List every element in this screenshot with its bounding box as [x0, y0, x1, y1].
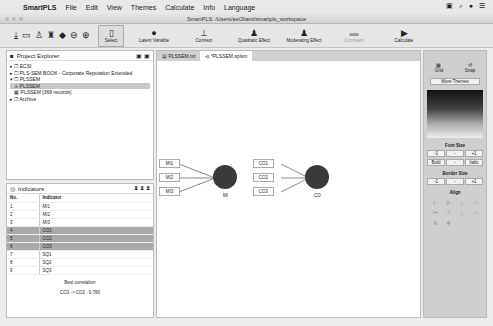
indicator-co1[interactable]: CO1	[253, 159, 274, 168]
toolbar: ⤓▭♙♜◆⊖⊕ ▯Select ●Latent Variable ⊥Connec…	[0, 24, 493, 48]
quadratic-effect-tool[interactable]: ♟Quadratic Effect	[234, 25, 274, 47]
latent-variable-tool[interactable]: ●Latent Variable	[134, 25, 174, 47]
indicator-mi3[interactable]: MI3	[159, 187, 180, 196]
moderating-effect-icon: ♟	[300, 28, 308, 38]
comment-icon: ▬	[350, 28, 359, 38]
font-increase-button[interactable]: +1	[465, 150, 483, 157]
best-correlation-label: Best correlation	[7, 280, 153, 285]
menu-file[interactable]: File	[65, 4, 76, 11]
table-row[interactable]: 2MI2	[7, 210, 153, 218]
window-icon[interactable]: ▭	[22, 30, 31, 41]
connect-tool[interactable]: ⊥Connect	[184, 25, 224, 47]
menu-language[interactable]: Language	[224, 4, 255, 11]
filter-icon[interactable]: ⧗	[140, 185, 144, 192]
table-row[interactable]: 1MI1	[7, 202, 153, 210]
delete-icon[interactable]: ♜	[47, 30, 55, 41]
indicator-co3[interactable]: CO3	[253, 187, 274, 196]
font-decrease-button[interactable]: -1	[427, 150, 445, 157]
filter-icon[interactable]: ⧗	[146, 185, 150, 192]
project-explorer: ■Project Explorer▣▣ ▸ ☐ ECSI ▸ ☐ PLS-SEM…	[6, 50, 154, 180]
align-icon: ⊥	[457, 209, 467, 216]
align-icon: ⊥	[457, 199, 467, 206]
search-icon[interactable]: ⌕	[459, 2, 463, 10]
window-title-bar: SmartPLS: /Users/aeOliami/smartpls_works…	[0, 14, 493, 24]
align-icon: ⋕	[443, 219, 453, 226]
table-row[interactable]: 4CO1	[7, 226, 153, 234]
filter-icon[interactable]: ⧗	[134, 185, 138, 192]
indicator-mi1[interactable]: MI1	[159, 159, 180, 168]
menu-info[interactable]: Info	[203, 4, 215, 11]
align-icon: ⊢	[430, 209, 440, 216]
minimize-panel-icon[interactable]: ▣	[136, 52, 142, 59]
connect-icon: ⊥	[200, 28, 208, 38]
best-correlation-value: CO3 -> CO2 : 0.780	[7, 290, 153, 295]
align-icon: ⊣	[470, 209, 480, 216]
maximize-panel-icon[interactable]: ▣	[144, 52, 150, 59]
table-row[interactable]: 8SQ2	[7, 258, 153, 266]
more-themes-button[interactable]: More Themes	[430, 78, 480, 85]
align-icon: ⊣	[470, 199, 480, 206]
zoom-button[interactable]	[19, 17, 23, 21]
snap-button[interactable]: ↺Snap	[465, 63, 476, 73]
comment-tool[interactable]: ▬Comment	[334, 25, 374, 47]
menu-calculate[interactable]: Calculate	[165, 4, 194, 11]
table-row[interactable]: 6CO3	[7, 242, 153, 250]
model-canvas[interactable]: ▤ PLSSEM.txt ⊲ *PLSSEM.splsm MI1 MI2 MI3…	[156, 50, 421, 318]
latent-variable-co[interactable]	[305, 165, 329, 189]
zoom-in-icon[interactable]: ⊕	[82, 30, 90, 41]
theme-palette[interactable]	[427, 90, 483, 138]
table-row[interactable]: 3MI3	[7, 218, 153, 226]
indicators-table: No.Indicator 1MI1 2MI2 3MI3 4CO1 5CO2 6C…	[7, 194, 153, 275]
zoom-out-icon[interactable]: ⊖	[70, 30, 78, 41]
align-icon: ⊤	[443, 209, 453, 216]
minimize-button[interactable]	[12, 17, 16, 21]
path-arrows	[157, 51, 422, 319]
calculate-tool[interactable]: ▶Calculate	[384, 25, 424, 47]
align-icon: ⊪	[443, 199, 453, 206]
bold-button[interactable]: Bold	[427, 159, 445, 166]
indicator-co2[interactable]: CO2	[253, 173, 274, 182]
tree-item[interactable]: ▸ ☐ Archive	[10, 96, 150, 103]
moderating-effect-tool[interactable]: ♟Moderating Effect	[284, 25, 324, 47]
export-icon[interactable]: ◆	[59, 30, 66, 41]
grid-button[interactable]: ▦Grid	[435, 63, 444, 73]
italic-button[interactable]: Italic	[465, 159, 483, 166]
panel-title: Project Explorer	[17, 53, 60, 59]
import-icon[interactable]: ⤓	[14, 30, 18, 41]
border-decrease-button[interactable]: -1	[427, 178, 445, 185]
user-icon[interactable]: ♙	[35, 30, 43, 41]
indicators-icon: ◎	[10, 185, 15, 192]
align-buttons[interactable]: ⊩⊪⊥⊣⊢⊤⊥⊣⋔⋕	[430, 199, 480, 226]
list-icon[interactable]: ☰	[479, 2, 485, 10]
align-icon: ⊩	[430, 199, 440, 206]
menu-view[interactable]: View	[107, 4, 122, 11]
play-icon: ▶	[401, 28, 408, 38]
app-menu[interactable]: SmartPLS	[23, 4, 56, 11]
quadratic-effect-icon: ♟	[250, 28, 258, 38]
menu-themes[interactable]: Themes	[131, 4, 156, 11]
menu-bar: SmartPLS File Edit View Themes Calculate…	[0, 0, 493, 14]
table-row[interactable]: 5CO2	[7, 234, 153, 242]
folder-icon: ■	[10, 53, 14, 59]
cursor-icon: ▯	[109, 28, 114, 38]
indicator-mi2[interactable]: MI2	[159, 173, 180, 182]
style-sidebar: ▦Grid ↺Snap More Themes Font Size -1-+1 …	[423, 50, 487, 318]
latent-variable-mi[interactable]	[213, 165, 237, 189]
app-tray-icon[interactable]: ▣	[446, 2, 453, 10]
latent-variable-icon: ●	[151, 28, 156, 38]
select-tool[interactable]: ▯Select	[98, 25, 124, 47]
indicators-panel: ◎Indicators⧗⧗⧗ No.Indicator 1MI1 2MI2 3M…	[6, 183, 154, 318]
table-row[interactable]: 9SQ3	[7, 266, 153, 274]
menu-edit[interactable]: Edit	[86, 4, 98, 11]
align-icon: ⋔	[430, 219, 440, 226]
close-button[interactable]	[5, 17, 9, 21]
border-increase-button[interactable]: +1	[465, 178, 483, 185]
status-icon[interactable]: ●	[469, 2, 473, 10]
table-row[interactable]: 7SQ1	[7, 250, 153, 258]
window-title: SmartPLS: /Users/aeOliami/smartpls_works…	[187, 16, 306, 22]
